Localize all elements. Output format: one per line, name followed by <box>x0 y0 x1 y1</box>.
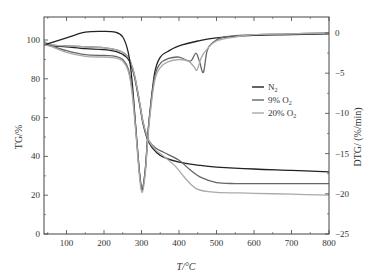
plot-frame <box>44 17 329 234</box>
y-left-tick-label: 40 <box>31 151 41 161</box>
y-right-tick-label: −20 <box>335 189 350 199</box>
x-tick-label: 400 <box>172 238 186 248</box>
y-left-tick-label: 20 <box>31 190 41 200</box>
x-tick-label: 500 <box>210 238 224 248</box>
y-right-tick-label: −15 <box>335 149 350 159</box>
x-tick-label: 600 <box>247 238 261 248</box>
x-axis-label: T/°C <box>176 261 195 272</box>
x-tick-label: 100 <box>60 238 74 248</box>
x-tick-label: 800 <box>322 238 336 248</box>
y-right-tick-label: −25 <box>335 229 350 239</box>
x-tick-label: 700 <box>285 238 299 248</box>
y-right-tick-label: −10 <box>335 108 350 118</box>
y-axis-left-label: TG/% <box>13 125 24 149</box>
tg-dtg-chart: 1002003004005006007008000204060801000−5−… <box>0 0 380 274</box>
legend: N29% O220% O2 <box>252 82 296 119</box>
x-tick-label: 300 <box>135 238 149 248</box>
x-tick-label: 200 <box>97 238 111 248</box>
y-right-tick-label: −5 <box>335 68 345 78</box>
y-left-tick-label: 0 <box>36 229 41 239</box>
y-left-tick-label: 100 <box>27 35 41 45</box>
y-left-tick-label: 60 <box>31 113 41 123</box>
series-tg-20-o2 <box>44 42 329 195</box>
y-right-tick-label: 0 <box>335 28 340 38</box>
series-tg-n2 <box>44 42 329 172</box>
axes: 1002003004005006007008000204060801000−5−… <box>27 17 350 248</box>
legend-label: 9% O2 <box>268 95 292 106</box>
y-left-tick-label: 80 <box>31 74 41 84</box>
legend-label: 20% O2 <box>268 108 296 119</box>
legend-label: N2 <box>268 82 278 93</box>
y-axis-right-label: DTG/ (%/min) <box>352 107 364 166</box>
